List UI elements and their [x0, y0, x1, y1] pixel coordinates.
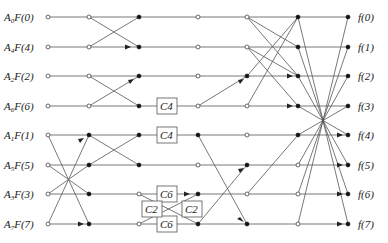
- output-label-2: f(2): [358, 70, 374, 83]
- svg-text:C4: C4: [160, 100, 173, 112]
- svg-text:C6: C6: [160, 218, 173, 230]
- box-c2-right: C2: [182, 201, 202, 217]
- box-c4-row4: C4: [157, 127, 177, 143]
- input-labels: A0F(0) A4F(4) A2F(2) A6F(6) A1F(1) A5F(5…: [3, 11, 34, 232]
- input-label-6: A3F(3): [3, 188, 34, 202]
- signal-flow-diagram: A0F(0) A4F(4) A2F(2) A6F(6) A1F(1) A5F(5…: [0, 0, 388, 243]
- input-label-0: A0F(0): [3, 11, 34, 25]
- input-label-5: A5F(5): [3, 159, 34, 173]
- output-label-4: f(4): [358, 129, 374, 142]
- svg-text:C6: C6: [160, 188, 173, 200]
- output-label-5: f(5): [358, 159, 374, 172]
- svg-text:C2: C2: [185, 203, 198, 215]
- box-c2-left: C2: [142, 201, 162, 217]
- box-c4-row3: C4: [157, 98, 177, 114]
- input-label-4: A1F(1): [3, 129, 34, 143]
- output-label-3: f(3): [358, 100, 374, 113]
- input-label-7: A7F(7): [3, 218, 34, 232]
- input-label-1: A4F(4): [3, 41, 34, 55]
- output-label-6: f(6): [358, 188, 374, 201]
- svg-text:C2: C2: [145, 203, 158, 215]
- arrowheads: [78, 45, 343, 227]
- output-label-7: f(7): [358, 218, 374, 231]
- output-label-1: f(1): [358, 41, 374, 54]
- input-label-3: A6F(6): [3, 100, 34, 114]
- input-label-2: A2F(2): [3, 70, 34, 84]
- output-labels: f(0) f(1) f(2) f(3) f(4) f(5) f(6) f(7): [358, 11, 374, 231]
- box-c6-row6: C6: [157, 186, 177, 202]
- output-label-0: f(0): [358, 11, 374, 24]
- box-c6-row7: C6: [157, 216, 177, 232]
- svg-text:C4: C4: [160, 129, 173, 141]
